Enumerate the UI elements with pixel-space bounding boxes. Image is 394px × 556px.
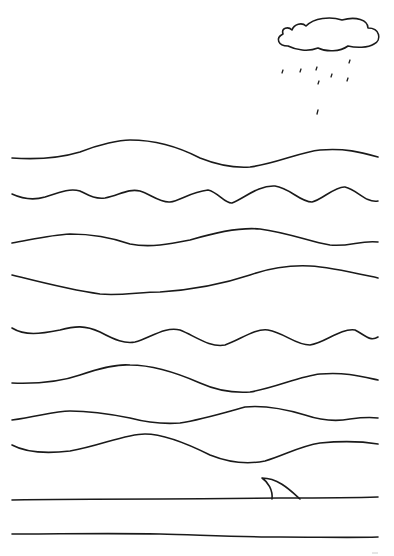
wave-lines xyxy=(12,140,378,537)
wave-line-6 xyxy=(12,365,378,392)
wave-line-3 xyxy=(12,229,378,246)
wave-line-10 xyxy=(12,534,378,538)
shark-fin-icon xyxy=(262,478,300,499)
raindrop-icon xyxy=(282,60,350,114)
wave-line-7 xyxy=(12,406,378,423)
wave-line-9 xyxy=(12,497,378,500)
wave-line-1 xyxy=(12,140,378,167)
wave-line-5 xyxy=(12,327,378,346)
tracing-worksheet xyxy=(0,0,394,556)
rain-cloud-icon xyxy=(278,18,378,51)
wave-line-2 xyxy=(12,186,378,203)
wave-line-8 xyxy=(12,434,378,463)
wave-line-4 xyxy=(12,266,378,295)
